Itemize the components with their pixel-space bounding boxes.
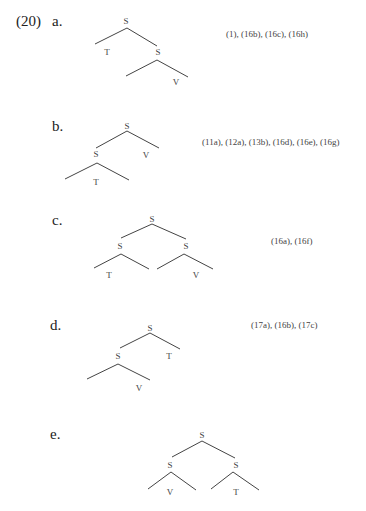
node-s-left: S: [167, 460, 172, 470]
node-v: V: [136, 383, 143, 393]
node-v: V: [143, 150, 150, 160]
node-t: T: [233, 487, 239, 497]
refs-c: (16a), (16f): [271, 236, 312, 246]
node-root: S: [124, 121, 129, 131]
item-label-a: a.: [52, 13, 62, 30]
node-s-right: S: [233, 460, 238, 470]
node-s-right: S: [183, 241, 188, 251]
example-number: (20): [16, 13, 41, 30]
refs-a: (1), (16b), (16c), (16h): [226, 29, 308, 39]
node-s: S: [93, 149, 98, 159]
node-v: V: [193, 270, 200, 280]
node-root: S: [123, 16, 128, 26]
node-s: S: [155, 47, 160, 57]
node-v: V: [167, 487, 174, 497]
item-label-b: b.: [52, 118, 63, 135]
node-t: T: [166, 351, 172, 361]
item-label-d: d.: [50, 317, 61, 334]
node-v: V: [173, 77, 180, 87]
item-label-c: c.: [52, 212, 62, 229]
node-root: S: [199, 430, 204, 440]
item-label-e: e.: [50, 426, 60, 443]
node-t: T: [104, 47, 110, 57]
refs-d: (17a), (16b), (17c): [251, 320, 317, 330]
node-root: S: [147, 323, 152, 333]
node-root: S: [149, 214, 154, 224]
node-s: S: [115, 351, 120, 361]
refs-b: (11a), (12a), (13b), (16d), (16e), (16g): [202, 137, 340, 147]
node-t: T: [93, 177, 99, 187]
node-t: T: [106, 270, 112, 280]
node-s-left: S: [117, 241, 122, 251]
